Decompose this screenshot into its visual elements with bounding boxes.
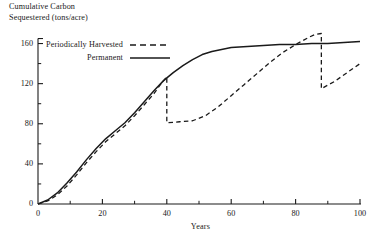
y-tick-label: 40 xyxy=(11,159,33,168)
x-tick-label: 0 xyxy=(25,209,51,218)
x-tick-label: 80 xyxy=(283,209,309,218)
series-line-periodically-harvested xyxy=(38,34,360,205)
series-line-permanent xyxy=(38,42,360,204)
x-tick-label: 20 xyxy=(89,209,115,218)
y-tick-label: 0 xyxy=(11,199,33,208)
y-tick-label: 80 xyxy=(11,119,33,128)
x-tick-label: 60 xyxy=(218,209,244,218)
x-tick-label: 40 xyxy=(154,209,180,218)
y-tick-label: 120 xyxy=(11,79,33,88)
x-tick-label: 100 xyxy=(347,209,373,218)
y-tick-label: 160 xyxy=(11,39,33,48)
axes xyxy=(38,39,361,204)
x-axis-title: Years xyxy=(0,222,375,231)
tick-marks xyxy=(38,44,360,204)
plot-area xyxy=(0,0,375,246)
x-axis-title-text: Years xyxy=(191,222,210,231)
carbon-sequestration-chart: Cumulative Carbon Sequestered (tons/acre… xyxy=(0,0,375,246)
